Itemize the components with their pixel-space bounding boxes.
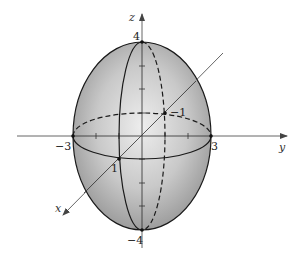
x-axis-label: x xyxy=(55,202,62,215)
ellipsoid-diagram: z y x 4 −4 −3 3 1 −1 xyxy=(0,0,301,262)
label-y-right: 3 xyxy=(211,140,218,153)
label-x-back: −1 xyxy=(170,106,186,119)
z-axis-label: z xyxy=(128,11,135,24)
label-x-front: 1 xyxy=(111,162,118,175)
label-z-bottom: −4 xyxy=(127,234,143,247)
y-axis-label: y xyxy=(278,141,286,154)
label-z-top: 4 xyxy=(133,30,140,43)
label-y-left: −3 xyxy=(55,140,71,153)
